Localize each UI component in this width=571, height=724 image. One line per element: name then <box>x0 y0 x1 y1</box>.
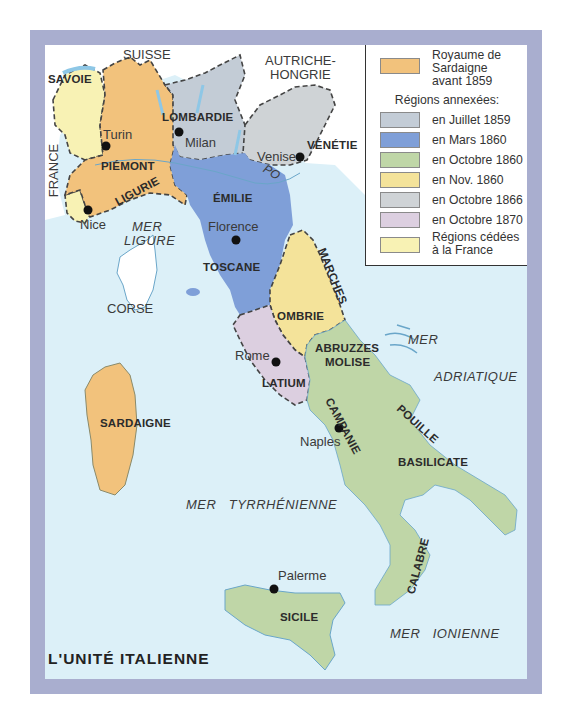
label-abruzzes: ABRUZZES <box>315 342 379 354</box>
legend-swatch-nov-1860 <box>380 172 420 188</box>
label-venetie: VÉNÉTIE <box>307 139 358 151</box>
city-dot-turin <box>102 142 111 151</box>
label-turin: Turin <box>103 127 132 142</box>
city-dot-rome <box>272 358 281 367</box>
label-piemont: PIÉMONT <box>101 160 155 172</box>
label-emilie: ÉMILIE <box>213 192 253 204</box>
label-savoie: SAVOIE <box>48 73 92 85</box>
label-mer-adriatique-2: ADRIATIQUE <box>434 369 518 384</box>
map-frame: Royaume de Sardaigne avant 1859 Régions … <box>30 30 542 694</box>
legend-swatch-sardaigne <box>380 58 420 74</box>
label-rome: Rome <box>235 348 270 363</box>
label-autriche-1: AUTRICHE- <box>265 53 336 68</box>
legend-label-juillet-1859: en Juillet 1859 <box>432 114 511 127</box>
label-mer-ligure-1: MER <box>132 219 162 234</box>
city-dot-florence <box>232 236 241 245</box>
legend-label-octobre-1866: en Octobre 1866 <box>432 194 523 207</box>
island-sicile <box>225 585 345 670</box>
island-sardaigne <box>85 363 137 495</box>
label-mer-ionienne: MER IONIENNE <box>390 626 500 641</box>
city-dot-nice <box>84 206 93 215</box>
legend-label-royaume-3: avant 1859 <box>432 75 492 88</box>
label-autriche-2: HONGRIE <box>270 67 331 82</box>
legend-label-nov-1860: en Nov. 1860 <box>432 174 504 187</box>
label-corse: CORSE <box>107 301 153 316</box>
city-dot-palerme <box>270 585 279 594</box>
legend-swatch-cedees <box>380 237 420 253</box>
label-palerme: Palerme <box>278 568 326 583</box>
legend-label-octobre-1870: en Octobre 1870 <box>432 214 523 227</box>
map-title: L'UNITÉ ITALIENNE <box>48 650 210 668</box>
island-elba <box>186 288 200 296</box>
legend-swatch-octobre-1866 <box>380 192 420 208</box>
legend-label-octobre-1860: en Octobre 1860 <box>432 154 523 167</box>
label-milan: Milan <box>185 135 216 150</box>
label-toscane: TOSCANE <box>203 261 260 273</box>
label-naples: Naples <box>300 434 340 449</box>
label-lombardie: LOMBARDIE <box>162 111 233 123</box>
label-france: FRANCE <box>46 144 61 197</box>
label-florence: Florence <box>208 219 259 234</box>
label-sicile: SICILE <box>280 611 318 623</box>
label-mer-ligure-2: LIGURE <box>124 233 175 248</box>
legend-label-mars-1860: en Mars 1860 <box>432 134 507 147</box>
label-nice: Nice <box>80 217 106 232</box>
label-basilicate: BASILICATE <box>398 456 468 468</box>
label-sardaigne: SARDAIGNE <box>100 417 171 429</box>
map-canvas: Royaume de Sardaigne avant 1859 Régions … <box>45 45 527 679</box>
city-dot-milan <box>175 128 184 137</box>
legend-swatch-octobre-1870 <box>380 212 420 228</box>
label-molise: MOLISE <box>325 356 370 368</box>
city-dot-venise <box>296 153 305 162</box>
legend-label-cedees-2: à la France <box>432 244 493 257</box>
map-legend: Royaume de Sardaigne avant 1859 Régions … <box>365 45 527 266</box>
legend-annexed-heading: Régions annexées: <box>366 93 527 107</box>
legend-swatch-juillet-1859 <box>380 112 420 128</box>
label-venise: Venise <box>257 149 296 164</box>
label-latium: LATIUM <box>262 377 306 389</box>
label-mer-tyrrhenienne: MER TYRRHÉNIENNE <box>186 497 337 512</box>
legend-swatch-mars-1860 <box>380 132 420 148</box>
label-ombrie: OMBRIE <box>277 310 324 322</box>
legend-swatch-octobre-1860 <box>380 152 420 168</box>
label-suisse: SUISSE <box>123 47 171 62</box>
label-mer-adriatique-1: MER <box>408 332 438 347</box>
